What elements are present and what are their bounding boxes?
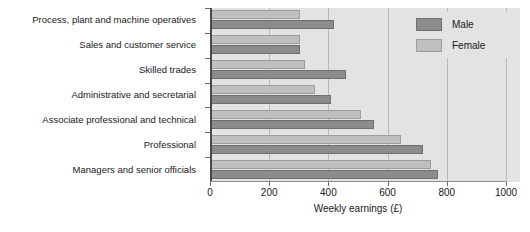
x-tick-label: 200 bbox=[249, 187, 289, 198]
category-label: Managers and senior officials bbox=[0, 164, 204, 175]
category-label: Associate professional and technical bbox=[0, 114, 204, 125]
y-axis-tick bbox=[205, 132, 210, 133]
legend-swatch-female bbox=[416, 39, 442, 52]
category-label: Sales and customer service bbox=[0, 39, 204, 50]
x-tick-label: 1000 bbox=[486, 187, 526, 198]
y-axis-tick bbox=[205, 8, 210, 9]
chart-figure: Process, plant and machine operativesSal… bbox=[0, 0, 530, 232]
chart-legend: Male Female bbox=[408, 12, 514, 58]
category-label: Administrative and secretarial bbox=[0, 89, 204, 100]
y-axis-tick bbox=[205, 33, 210, 34]
x-axis-title: Weekly earnings (£) bbox=[210, 203, 506, 214]
y-axis-tick bbox=[205, 157, 210, 158]
x-tick-800 bbox=[447, 182, 448, 186]
category-label: Professional bbox=[0, 139, 204, 150]
x-tick-1000 bbox=[506, 182, 507, 186]
x-tick-label: 800 bbox=[427, 187, 467, 198]
legend-label-male: Male bbox=[452, 18, 474, 31]
x-tick-0 bbox=[210, 182, 211, 186]
legend-swatch-male bbox=[416, 18, 442, 31]
category-label: Skilled trades bbox=[0, 64, 204, 75]
x-tick-600 bbox=[388, 182, 389, 186]
x-tick-label: 400 bbox=[308, 187, 348, 198]
x-tick-400 bbox=[328, 182, 329, 186]
x-tick-label: 600 bbox=[368, 187, 408, 198]
y-axis-tick bbox=[205, 58, 210, 59]
y-axis-tick bbox=[205, 83, 210, 84]
y-axis-tick bbox=[205, 107, 210, 108]
x-tick-200 bbox=[269, 182, 270, 186]
x-tick-label: 0 bbox=[190, 187, 230, 198]
legend-label-female: Female bbox=[452, 39, 485, 52]
category-label: Process, plant and machine operatives bbox=[0, 14, 204, 25]
